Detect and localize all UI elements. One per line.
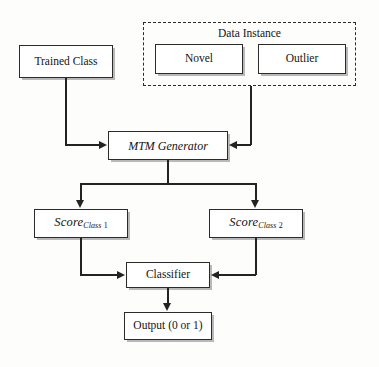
node-outlier-label: Outlier	[286, 53, 319, 65]
node-output: Output (0 or 1)	[124, 312, 212, 340]
node-score-class-1: ScoreClass 1	[34, 209, 128, 238]
edge-mtm-to-score1-arrowhead-icon	[76, 200, 84, 208]
edge-trained-class-arrowhead-icon	[99, 141, 107, 149]
node-trained-class-label: Trained Class	[34, 56, 97, 68]
node-score-class-2: ScoreClass 2	[209, 209, 303, 238]
edge-mtm-to-score2-arrowhead-icon	[251, 200, 259, 208]
edge-score2-horizontal	[218, 274, 256, 276]
edge-mtm-split-stem	[167, 160, 169, 184]
edge-mtm-split-bar	[80, 183, 256, 185]
node-classifier-label: Classifier	[146, 269, 190, 281]
node-output-label: Output (0 or 1)	[133, 320, 202, 332]
edge-mtm-to-score2-vertical	[255, 183, 257, 201]
edge-classifier-to-output-arrowhead-icon	[163, 303, 171, 311]
edge-trained-class-vertical	[65, 78, 67, 145]
edge-score2-vertical	[255, 238, 257, 275]
diagram-canvas: Trained Class Data Instance Novel Outlie…	[0, 0, 379, 367]
edge-data-instance-arrowhead-icon	[229, 141, 237, 149]
group-data-instance-title: Data Instance	[144, 27, 355, 39]
node-novel-label: Novel	[185, 53, 213, 65]
edge-data-instance-vertical	[250, 86, 252, 145]
edge-classifier-to-output-vertical	[167, 288, 169, 304]
node-mtm-generator-label: MTM Generator	[128, 140, 208, 152]
edge-data-instance-horizontal	[236, 144, 251, 146]
node-score-class-2-label: ScoreClass 2	[229, 216, 283, 230]
node-mtm-generator: MTM Generator	[108, 131, 228, 160]
edge-score1-horizontal	[80, 274, 119, 276]
node-classifier: Classifier	[126, 262, 210, 288]
edge-trained-class-horizontal	[65, 144, 101, 146]
node-outlier: Outlier	[258, 44, 346, 74]
node-novel: Novel	[155, 44, 243, 74]
edge-score2-arrowhead-icon	[211, 271, 219, 279]
edge-score1-arrowhead-icon	[117, 271, 125, 279]
node-score-class-1-label: ScoreClass 1	[54, 216, 108, 230]
node-trained-class: Trained Class	[19, 45, 113, 78]
edge-score1-vertical	[80, 238, 82, 275]
edge-mtm-to-score1-vertical	[80, 183, 82, 201]
